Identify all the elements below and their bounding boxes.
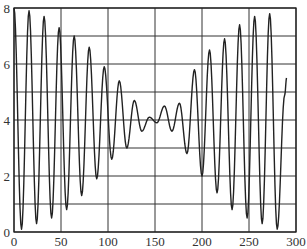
x-tick-label: 0 [11, 234, 18, 249]
x-tick-label: 300 [286, 234, 306, 249]
y-tick-label: 0 [4, 225, 11, 240]
grid-lines [14, 8, 296, 232]
line-chart: 02468 050100150200250300 [0, 0, 307, 249]
signal-line [14, 8, 287, 229]
data-series [14, 8, 287, 229]
y-tick-label: 8 [4, 1, 11, 16]
x-tick-label: 100 [98, 234, 118, 249]
x-tick-label: 250 [239, 234, 259, 249]
x-tick-label: 50 [55, 234, 68, 249]
x-tick-label: 200 [192, 234, 212, 249]
y-tick-label: 2 [4, 169, 11, 184]
y-axis-ticks: 02468 [4, 1, 11, 240]
x-tick-label: 150 [145, 234, 165, 249]
y-tick-label: 4 [4, 113, 11, 128]
x-axis-ticks: 050100150200250300 [11, 234, 306, 249]
y-tick-label: 6 [4, 57, 11, 72]
